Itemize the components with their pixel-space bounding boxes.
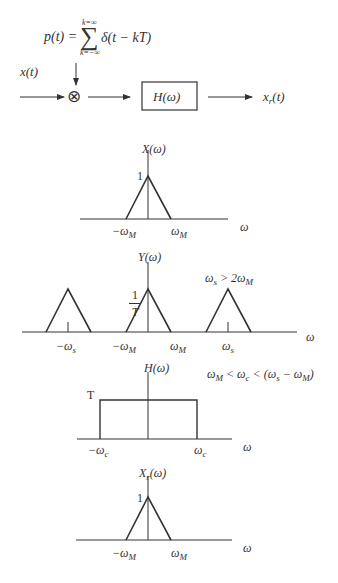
x-spectrum-peak-label: 1 [137,170,143,182]
h-gain-label: T [87,389,94,401]
filter-label: H(ω) [153,90,180,103]
sum-symbol: ∑ [80,24,99,50]
xr-tick-neg-wm: −ωM [112,547,136,562]
sum-lower-limit: k=−∞ [80,49,100,57]
xr-spectrum-plot [76,476,232,540]
y-axis-label: ω [306,331,314,343]
xr-spectrum-title: Xr(ω) [139,467,166,482]
cutoff-condition: ωM < ωc < (ωs − ωM) [207,368,314,383]
output-label: xr(t) [263,90,285,106]
y-tick-ws: ωs [222,340,234,355]
input-label: x(t) [20,65,38,78]
x-spectrum-title: X(ω) [142,143,166,155]
multiplier-icon: ⊗ [67,88,81,105]
xr-peak-label: 1 [137,492,143,504]
x-tick-wm: ωM [171,225,187,240]
x-axis-label: ω [240,221,248,233]
h-filter-title: H(ω) [144,362,169,374]
y-tick-neg-ws: −ωs [56,340,76,355]
h-tick-neg-wc: −ωc [88,444,109,459]
xr-axis-label: ω [243,542,251,554]
h-tick-wc: ωc [194,444,206,459]
y-spectrum-title: Y(ω) [138,251,161,263]
h-axis-label: ω [243,441,251,453]
xr-tick-wm: ωM [171,547,187,562]
x-spectrum-plot [80,150,228,219]
y-peak-label: 1T [129,289,141,318]
sampling-condition: ωs > 2ωM [205,272,253,287]
y-tick-neg-wm: −ωM [112,340,136,355]
x-tick-neg-wm: −ωM [112,225,136,240]
diagram-canvas [0,0,338,583]
y-spectrum-plot [22,262,297,332]
y-tick-wm: ωM [170,340,186,355]
impulse-train-lhs: p(t) = [44,30,77,44]
impulse-train-summand: δ(t − kT) [101,31,151,45]
block-diagram [20,63,252,110]
